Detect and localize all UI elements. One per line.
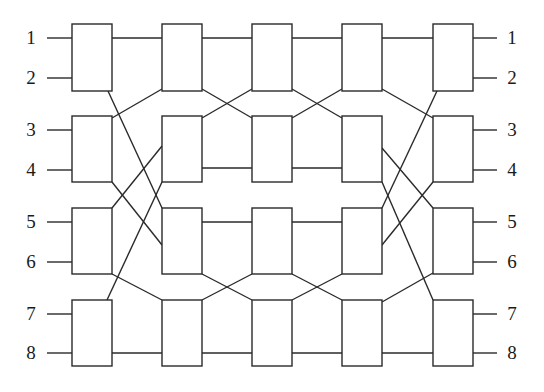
- wire: [107, 182, 162, 300]
- switching-network-diagram: [0, 0, 544, 392]
- input-label: 8: [21, 343, 41, 363]
- switch-box-stage5-4: [433, 300, 473, 366]
- output-label: 2: [502, 68, 522, 88]
- input-label: 3: [21, 120, 41, 140]
- switch-box-stage2-2: [162, 116, 202, 182]
- input-label: 5: [21, 212, 41, 232]
- wire: [382, 89, 433, 118]
- switch-box-stage2-4: [162, 300, 202, 366]
- output-label: 5: [502, 212, 522, 232]
- switch-box-stage4-4: [342, 300, 382, 366]
- input-label: 6: [21, 252, 41, 272]
- wire: [382, 91, 437, 208]
- switch-box-stage5-1: [433, 24, 473, 91]
- output-label: 7: [502, 304, 522, 324]
- input-label: 4: [21, 160, 41, 180]
- switch-box-stage4-2: [342, 116, 382, 182]
- input-label: 7: [21, 304, 41, 324]
- switch-box-stage1-4: [72, 300, 112, 366]
- switch-box-stage1-3: [72, 208, 112, 274]
- switch-box-stage2-3: [162, 208, 202, 274]
- switch-box-stage3-2: [252, 116, 292, 182]
- wire: [112, 89, 162, 118]
- switch-box-stage3-4: [252, 300, 292, 366]
- switch-box-stage1-1: [72, 24, 112, 91]
- switch-box-stage5-3: [433, 208, 473, 274]
- switch-box-stage4-3: [342, 208, 382, 274]
- switch-box-stage1-2: [72, 116, 112, 182]
- wire: [112, 274, 162, 300]
- switch-boxes: [72, 24, 473, 366]
- switch-box-stage5-2: [433, 116, 473, 182]
- switch-box-stage2-1: [162, 24, 202, 91]
- input-label: 2: [21, 68, 41, 88]
- output-label: 3: [502, 120, 522, 140]
- output-label: 1: [502, 28, 522, 48]
- output-label: 4: [502, 160, 522, 180]
- switch-box-stage4-1: [342, 24, 382, 91]
- switch-box-stage3-1: [252, 24, 292, 91]
- output-label: 8: [502, 343, 522, 363]
- wire: [382, 273, 433, 302]
- wire: [108, 91, 162, 208]
- output-label: 6: [502, 252, 522, 272]
- switch-box-stage3-3: [252, 208, 292, 274]
- input-label: 1: [21, 28, 41, 48]
